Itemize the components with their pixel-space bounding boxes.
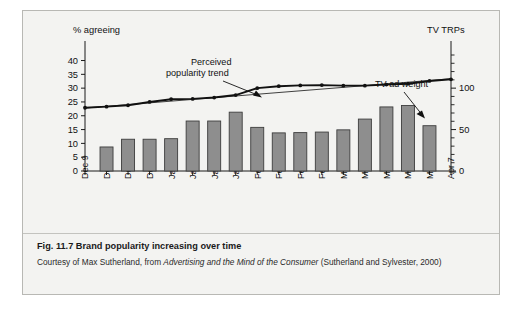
y-tick-label: 25 xyxy=(68,97,78,107)
figure-caption: Fig. 11.7 Brand popularity increasing ov… xyxy=(23,233,500,295)
line-marker xyxy=(277,84,281,88)
bar xyxy=(294,133,307,171)
bar xyxy=(423,126,436,171)
y-tick-label: 15 xyxy=(68,125,78,135)
bar xyxy=(208,121,221,171)
bar xyxy=(122,139,135,171)
bar xyxy=(100,147,113,171)
y-tick-label: 10 xyxy=(68,139,78,149)
y2-tick-label: 100 xyxy=(459,83,475,93)
bar xyxy=(143,139,156,171)
y-tick-label: 30 xyxy=(68,83,78,93)
y-tick-label: 0 xyxy=(73,166,78,176)
annotation-perceived-line1: Perceived xyxy=(191,57,231,67)
caption-title-text: Brand popularity increasing over time xyxy=(76,241,241,251)
chart-plot-area: % agreeingTV TRPs0510152025303540050100D… xyxy=(23,11,500,233)
bar xyxy=(380,107,393,171)
credit-book-title: Advertising and the Mind of the Consumer xyxy=(163,257,318,267)
line-marker xyxy=(449,77,453,81)
bar xyxy=(165,139,178,171)
y-tick-label: 20 xyxy=(68,111,78,121)
bar xyxy=(251,127,264,171)
bar xyxy=(229,112,242,171)
line-marker xyxy=(320,83,324,87)
credit-prefix: Courtesy of Max Sutherland, from xyxy=(37,257,163,267)
bar xyxy=(401,106,414,171)
bar xyxy=(315,132,328,171)
y-tick-label: 40 xyxy=(68,56,78,66)
annotation-tv-ad-weight: TV ad weight xyxy=(375,79,429,89)
figure-frame: % agreeingTV TRPs0510152025303540050100D… xyxy=(22,10,500,295)
y2-tick-label: 0 xyxy=(459,166,464,176)
credit-suffix: (Sutherland and Sylvester, 2000) xyxy=(318,257,441,267)
annotation-perceived-line2: popularity trend xyxy=(166,68,229,78)
annotation-tv-ad-arrowhead xyxy=(417,111,426,119)
y2-axis-title: TV TRPs xyxy=(427,25,465,35)
line-marker xyxy=(169,97,173,101)
y-tick-label: 35 xyxy=(68,70,78,80)
y2-tick-label: 50 xyxy=(459,125,469,135)
caption-title-line: Fig. 11.7 Brand popularity increasing ov… xyxy=(37,240,489,253)
x-tick-label: Dec 9 xyxy=(80,155,90,179)
chart-svg: % agreeingTV TRPs0510152025303540050100D… xyxy=(23,11,500,233)
line-marker xyxy=(298,83,302,87)
y-axis-title: % agreeing xyxy=(73,25,120,35)
bar xyxy=(272,133,285,171)
bar xyxy=(337,130,350,171)
bar xyxy=(358,119,371,171)
x-tick-label: Apr 7 xyxy=(446,157,456,179)
caption-credit-line: Courtesy of Max Sutherland, from Adverti… xyxy=(37,256,489,270)
line-marker xyxy=(126,103,130,107)
bar xyxy=(186,121,199,171)
line-marker xyxy=(255,86,259,90)
y-tick-label: 5 xyxy=(73,152,78,162)
caption-figure-number: Fig. 11.7 xyxy=(37,241,73,251)
